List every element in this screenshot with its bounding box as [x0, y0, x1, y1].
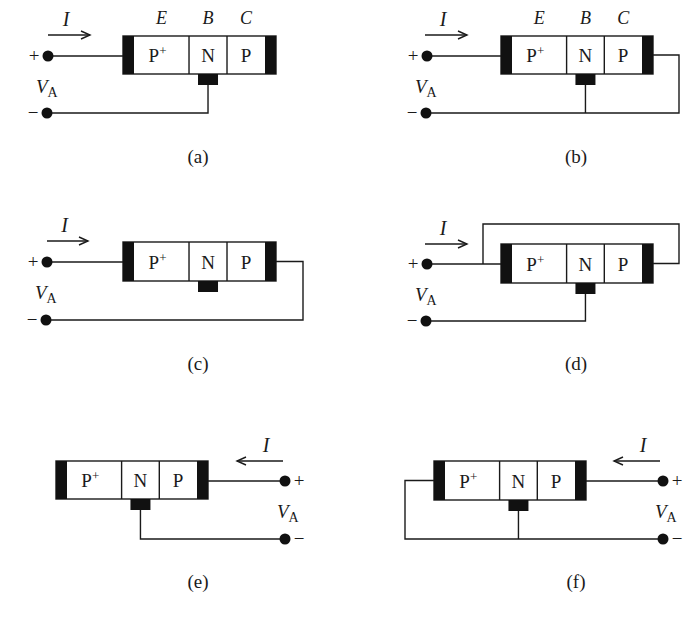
panel-e: P+NP+−VAI(e) [56, 434, 304, 593]
region-label-p: P [241, 252, 252, 273]
emitter-contact [434, 461, 445, 500]
minus-sign: − [27, 309, 38, 330]
voltage-label: VA [36, 76, 59, 100]
positive-terminal [658, 476, 669, 487]
transistor-body [56, 461, 208, 499]
base-contact [198, 74, 218, 85]
region-label-n: N [201, 252, 215, 273]
panel-caption: (b) [565, 146, 587, 168]
minus-sign: − [28, 102, 39, 123]
panel-caption: (f) [567, 571, 586, 593]
emitter-contact [501, 36, 512, 74]
minus-sign: − [672, 528, 683, 549]
collector-contact [642, 244, 653, 283]
emitter-contact [123, 36, 134, 74]
emitter-contact [123, 242, 134, 281]
voltage-label: VA [277, 501, 300, 525]
panel-caption: (a) [187, 146, 208, 168]
voltage-label: VA [415, 284, 438, 308]
terminal-label-b: B [203, 8, 214, 28]
base-contact [508, 500, 528, 511]
plus-sign: + [29, 45, 40, 66]
region-label-p: P [551, 471, 562, 492]
negative-terminal [421, 316, 432, 327]
plus-sign: + [672, 470, 683, 491]
current-label: I [439, 8, 448, 30]
plus-sign: + [408, 253, 419, 274]
region-label-n: N [579, 45, 593, 66]
panel-caption: (e) [187, 571, 208, 593]
region-label-n: N [512, 471, 526, 492]
panel-caption: (c) [187, 353, 208, 375]
panel-f: P+NP+−VAI(f) [405, 434, 682, 593]
current-label: I [439, 217, 448, 239]
panel-d: P+NP+−VAI(d) [407, 217, 679, 375]
base-contact [575, 283, 595, 294]
terminal-label-b: B [580, 8, 591, 28]
plus-sign: + [294, 470, 305, 491]
figure-canvas: P+NPEBC+−VAI(a)P+NPEBC+−VAI(b)P+NP+−VAI(… [0, 0, 699, 620]
positive-terminal [43, 51, 54, 62]
transistor-configuration-figure: P+NPEBC+−VAI(a)P+NPEBC+−VAI(b)P+NP+−VAI(… [0, 0, 699, 620]
region-label-n: N [134, 470, 148, 491]
terminal-label-e: E [533, 8, 545, 28]
transistor-body [123, 36, 276, 74]
voltage-label: VA [655, 501, 678, 525]
region-label-n: N [579, 254, 593, 275]
emitter-contact [501, 244, 512, 283]
negative-terminal [658, 534, 669, 545]
panel-caption: (d) [565, 353, 587, 375]
emitter-contact [56, 461, 67, 499]
region-label-p: P [618, 254, 629, 275]
region-label-p: P [173, 470, 184, 491]
transistor-body [501, 36, 653, 74]
base-contact [198, 281, 218, 292]
collector-contact [575, 461, 586, 500]
transistor-body [123, 242, 276, 281]
current-label: I [60, 214, 69, 236]
minus-sign: − [407, 102, 418, 123]
terminal-label-e: E [155, 8, 167, 28]
transistor-body [434, 461, 586, 500]
collector-contact [197, 461, 208, 499]
positive-terminal [42, 257, 53, 268]
base-wire [52, 85, 208, 113]
negative-terminal [280, 534, 291, 545]
minus-sign: − [407, 310, 418, 331]
region-label-n: N [201, 45, 215, 66]
base-contact [575, 74, 595, 85]
plus-sign: + [408, 45, 419, 66]
base-wire [431, 294, 585, 321]
voltage-label: VA [415, 76, 438, 100]
collector-contact [265, 36, 276, 74]
current-label: I [62, 8, 71, 30]
negative-terminal [421, 108, 432, 119]
negative-terminal [42, 108, 53, 119]
positive-terminal [280, 476, 291, 487]
plus-sign: + [28, 251, 39, 272]
base-wire [140, 510, 280, 539]
collector-contact [265, 242, 276, 281]
positive-terminal [422, 51, 433, 62]
current-label: I [262, 434, 271, 456]
positive-terminal [422, 259, 433, 270]
negative-terminal [41, 315, 52, 326]
panel-c: P+NP+−VAI(c) [27, 214, 303, 375]
transistor-body [501, 244, 653, 283]
region-label-p: P [241, 45, 252, 66]
collector-contact [642, 36, 653, 74]
panel-a: P+NPEBC+−VAI(a) [28, 8, 276, 168]
panel-b: P+NPEBC+−VAI(b) [407, 8, 679, 168]
current-label: I [639, 434, 648, 456]
minus-sign: − [294, 528, 305, 549]
terminal-label-c: C [617, 8, 630, 28]
terminal-label-c: C [240, 8, 253, 28]
voltage-label: VA [35, 282, 58, 306]
base-contact [130, 499, 150, 510]
region-label-p: P [618, 45, 629, 66]
